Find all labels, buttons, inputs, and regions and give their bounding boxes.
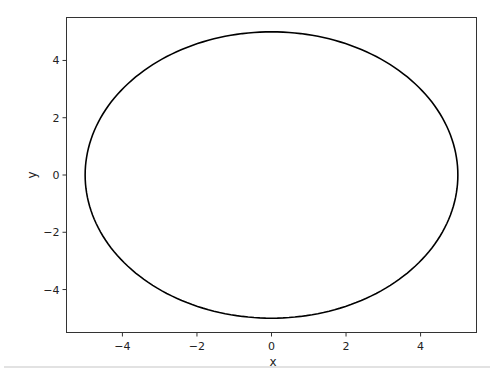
y-tick-label: −4 — [43, 284, 59, 297]
chart: −4−2024 −4−2024 x y — [0, 0, 494, 381]
x-tick-label: 0 — [268, 340, 275, 353]
x-tick-label: 2 — [343, 340, 350, 353]
axes-frame — [67, 18, 477, 333]
x-tick-label: −2 — [189, 340, 205, 353]
series-line-circle — [85, 32, 458, 318]
y-axis-ticks: −4−2024 — [43, 54, 66, 296]
plot-area — [85, 32, 458, 318]
y-axis-label: y — [25, 171, 39, 178]
y-tick-label: −2 — [43, 226, 59, 239]
y-tick-label: 4 — [53, 54, 60, 67]
y-tick-label: 0 — [53, 169, 60, 182]
y-tick-label: 2 — [53, 112, 60, 125]
x-tick-label: −4 — [114, 340, 130, 353]
x-axis-ticks: −4−2024 — [114, 333, 424, 353]
x-tick-label: 4 — [417, 340, 424, 353]
bottom-divider — [4, 366, 490, 368]
